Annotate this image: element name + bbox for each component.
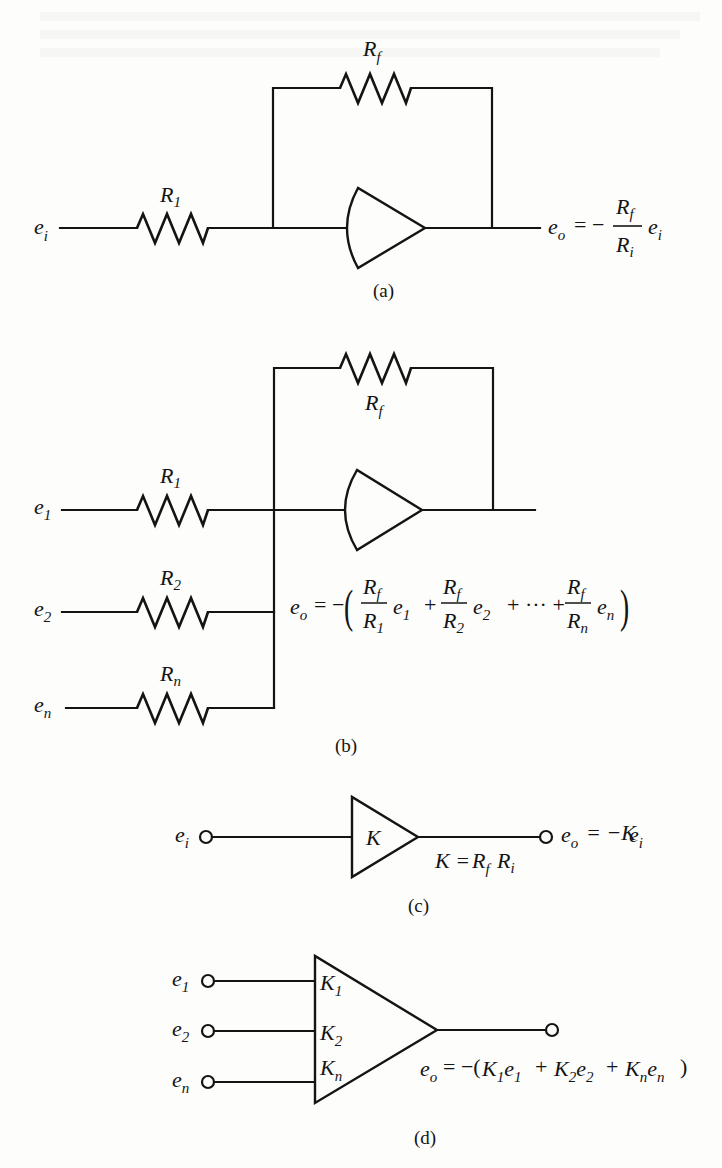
caption-b: (b) bbox=[335, 735, 357, 757]
feedback-wire-left bbox=[273, 88, 340, 228]
resistor-label-rf: Rf bbox=[362, 36, 382, 65]
svg-text:): ) bbox=[620, 581, 629, 633]
input-terminal-icon bbox=[202, 1025, 214, 1037]
feedback-wire-right bbox=[411, 368, 493, 510]
svg-text:+: + bbox=[535, 1054, 547, 1079]
svg-text:+: + bbox=[424, 592, 436, 617]
caption-a: (a) bbox=[373, 280, 394, 302]
input-label-e1: e1 bbox=[172, 966, 189, 995]
caption-d: (d) bbox=[414, 1127, 436, 1149]
svg-text:eo: eo bbox=[561, 822, 579, 851]
panel-a-inverting-amplifier: ei R1 Rf eo = − Rf Ri ei (a) bbox=[34, 36, 662, 302]
caption-c: (c) bbox=[408, 895, 429, 917]
input-label-e1: e1 bbox=[34, 494, 51, 523]
svg-text:+: + bbox=[606, 1054, 618, 1079]
output-equation-b: eo = − ( Rf R1 e1 + Rf R2 e2 + ··· + Rf … bbox=[290, 574, 629, 636]
input-label-ei: ei bbox=[175, 822, 189, 851]
resistor-rf-icon bbox=[340, 74, 411, 103]
output-terminal-icon bbox=[540, 831, 552, 843]
output-equation-d: eo = −( K1e1 + K2e2 + Knen ) bbox=[420, 1054, 687, 1085]
svg-text:Rf: Rf bbox=[442, 574, 462, 602]
svg-text:K =: K = bbox=[434, 848, 470, 873]
resistor-r1-icon bbox=[137, 496, 208, 525]
svg-text:R1: R1 bbox=[362, 608, 384, 636]
input-bus-and-feedback-left bbox=[274, 368, 340, 708]
panel-b-summing-amplifier: Rf e1 R1 e2 R2 en Rn eo = − ( Rf R1 e1 bbox=[34, 354, 629, 757]
svg-text:eo: eo bbox=[420, 1056, 438, 1085]
input-label-ei: ei bbox=[34, 214, 48, 244]
svg-text:= −: = − bbox=[574, 212, 604, 237]
svg-text:eo: eo bbox=[548, 214, 566, 243]
op-amp-icon bbox=[347, 188, 425, 268]
output-equation-a: eo = − Rf Ri ei bbox=[548, 194, 662, 260]
resistor-rn-icon bbox=[137, 694, 208, 723]
resistor-r1-icon bbox=[137, 214, 208, 243]
feedback-wire-right bbox=[411, 88, 492, 228]
svg-text:R2: R2 bbox=[442, 608, 464, 636]
svg-text:ei: ei bbox=[648, 214, 662, 243]
resistor-label-r2: R2 bbox=[159, 565, 181, 593]
input-label-en: en bbox=[172, 1067, 189, 1096]
resistor-label-r1: R1 bbox=[159, 182, 181, 210]
svg-text:Rf: Rf bbox=[566, 574, 586, 602]
svg-text:Rf: Rf bbox=[362, 574, 382, 602]
svg-text:): ) bbox=[680, 1054, 687, 1079]
op-amp-icon bbox=[345, 470, 422, 550]
svg-text:K2e2: K2e2 bbox=[553, 1056, 594, 1085]
resistor-label-rf: Rf bbox=[364, 390, 384, 419]
gain-label-k: K bbox=[365, 825, 382, 850]
svg-text:Ri: Ri bbox=[496, 848, 515, 876]
svg-text:e1: e1 bbox=[393, 594, 410, 623]
resistor-label-rn: Rn bbox=[159, 661, 181, 689]
svg-text:e2: e2 bbox=[473, 594, 491, 623]
input-terminal-icon bbox=[202, 1076, 214, 1088]
svg-text:+ ··· +: + ··· + bbox=[507, 592, 565, 617]
svg-text:en: en bbox=[597, 594, 614, 623]
svg-text:Knen: Knen bbox=[624, 1056, 664, 1085]
input-label-e2: e2 bbox=[172, 1016, 190, 1045]
input-terminal-icon bbox=[202, 975, 214, 987]
input-label-e2: e2 bbox=[34, 596, 52, 625]
output-terminal-icon bbox=[546, 1024, 558, 1036]
svg-text:K1e1: K1e1 bbox=[481, 1056, 521, 1085]
output-equation-c: eo = −K ei bbox=[561, 820, 643, 851]
panel-c-block-inverting-amplifier: ei K eo = −K ei K = Rf Ri (c) bbox=[175, 797, 643, 917]
svg-text:ei: ei bbox=[629, 822, 643, 851]
svg-text:eo: eo bbox=[290, 594, 308, 623]
svg-text:= −: = − bbox=[314, 592, 344, 617]
svg-text:Rf: Rf bbox=[471, 848, 491, 877]
svg-text:Rn: Rn bbox=[566, 608, 588, 636]
svg-text:Rf: Rf bbox=[615, 194, 635, 222]
gain-block-icon bbox=[352, 797, 418, 877]
input-label-en: en bbox=[34, 692, 51, 721]
resistor-r2-icon bbox=[137, 598, 208, 627]
figure-page: ei R1 Rf eo = − Rf Ri ei (a) Rf e1 bbox=[0, 0, 722, 1168]
svg-text:Ri: Ri bbox=[615, 232, 634, 260]
panel-d-block-summing-amplifier: e1 e2 en K1 K2 Kn eo = −( K1e1 + K2e2 + … bbox=[172, 956, 687, 1149]
resistor-label-r1: R1 bbox=[159, 463, 181, 491]
op-amp-figure: ei R1 Rf eo = − Rf Ri ei (a) Rf e1 bbox=[0, 0, 722, 1168]
input-terminal-icon bbox=[200, 831, 212, 843]
gain-definition-c: K = Rf Ri bbox=[434, 848, 515, 877]
resistor-rf-icon bbox=[340, 354, 411, 383]
svg-text:= −(: = −( bbox=[443, 1054, 481, 1079]
svg-text:(: ( bbox=[344, 581, 353, 633]
